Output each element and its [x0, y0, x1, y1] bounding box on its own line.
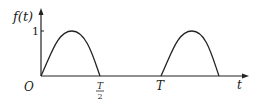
x-tick-label-period: T: [156, 79, 165, 93]
chart: f(t) 1 O T 2 T t: [0, 0, 259, 106]
y-axis-label: f(t): [12, 9, 33, 24]
x-tick-label-half-period-num: T: [97, 81, 104, 91]
x-axis-label: t: [237, 78, 242, 92]
origin-label: O: [24, 80, 34, 94]
y-axis-arrow-icon: [39, 8, 44, 15]
pulse-1: [41, 31, 100, 76]
x-tick-label-half-period-den: 2: [98, 92, 103, 101]
y-tick-label-1: 1: [32, 25, 39, 38]
x-axis-arrow-icon: [242, 74, 249, 79]
pulse-2: [161, 31, 219, 76]
